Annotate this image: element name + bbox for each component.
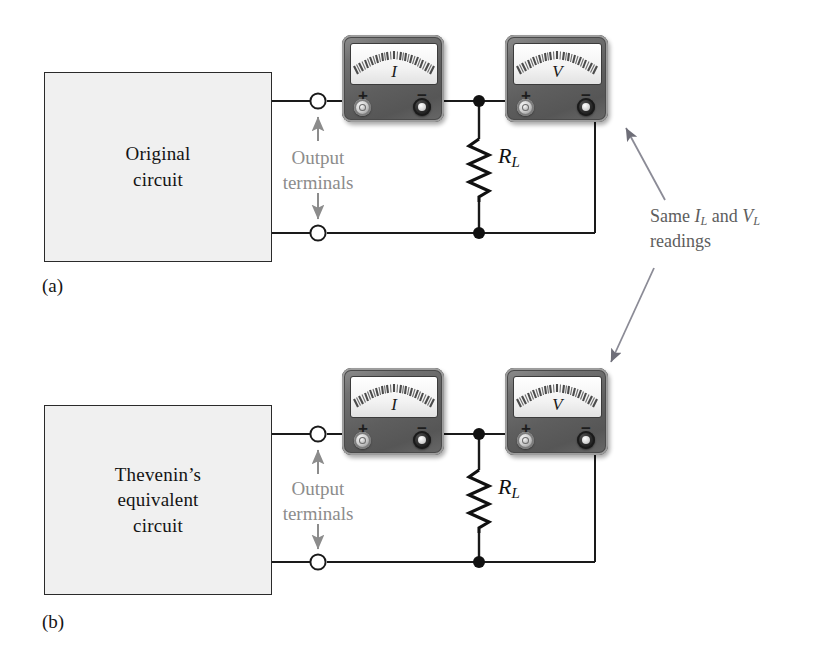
part-label-b: (b): [42, 611, 64, 633]
same-readings-annotation: Same IL and VL readings: [650, 205, 760, 253]
resistor-label-b-sub: L: [511, 485, 519, 501]
output-terminals-a-line2: terminals: [262, 171, 374, 196]
ammeter-b-minus-jack[interactable]: [413, 431, 431, 449]
output-terminals-label-b: Output terminals: [262, 477, 374, 526]
voltmeter-b-face-label: V: [514, 395, 601, 415]
same-readings-prefix: Same: [650, 206, 695, 226]
same-readings-line1: Same IL and VL: [650, 205, 760, 230]
arrow-to-panel-b: [611, 268, 654, 362]
output-terminals-label-a: Output terminals: [262, 146, 374, 195]
ammeter-a-plus-jack[interactable]: [354, 99, 371, 116]
ammeter-panel-b[interactable]: I + −: [342, 368, 444, 455]
ammeter-a-face: I: [350, 43, 438, 85]
ammeter-b-face-label: I: [351, 395, 437, 415]
output-terminals-b-line1: Output: [262, 477, 374, 502]
thevenin-circuit-box-label: Thevenin’s equivalent circuit: [115, 462, 201, 539]
resistor-label-a: RL: [498, 143, 520, 171]
thevenin-label-line2: equivalent: [115, 487, 201, 513]
ammeter-b-plus-jack[interactable]: [354, 432, 371, 449]
voltmeter-a-face-label: V: [514, 62, 601, 82]
same-readings-voltage-sub: L: [753, 214, 760, 228]
part-label-a: (a): [42, 275, 63, 297]
voltmeter-b-minus-jack[interactable]: [577, 431, 595, 449]
original-circuit-box[interactable]: Original circuit: [44, 72, 272, 262]
original-circuit-box-label: Original circuit: [126, 141, 191, 192]
ammeter-a-minus-jack[interactable]: [413, 98, 431, 116]
thevenin-circuit-box[interactable]: Thevenin’s equivalent circuit: [44, 405, 272, 595]
ammeter-b-face: I: [350, 376, 438, 418]
resistor-label-b-symbol: R: [498, 474, 511, 499]
output-terminals-b-line2: terminals: [262, 502, 374, 527]
voltmeter-panel-b[interactable]: V + −: [505, 368, 608, 455]
voltmeter-panel-a[interactable]: V + −: [505, 35, 608, 122]
same-readings-conjunction: and: [707, 206, 742, 226]
output-terminals-a-line1: Output: [262, 146, 374, 171]
ammeter-panel-a[interactable]: I + −: [342, 35, 444, 122]
voltmeter-b-face: V: [513, 376, 602, 418]
resistor-label-a-sub: L: [511, 154, 519, 170]
resistor-label-b: RL: [498, 474, 520, 502]
resistor-label-a-symbol: R: [498, 143, 511, 168]
same-readings-voltage-symbol: V: [742, 206, 753, 226]
original-circuit-label-line2: circuit: [126, 167, 191, 193]
voltmeter-b-plus-jack[interactable]: [517, 432, 534, 449]
figure-canvas: Original circuit Output terminals RL: [0, 0, 813, 661]
same-readings-line2: readings: [650, 230, 760, 254]
thevenin-label-line3: circuit: [115, 513, 201, 539]
arrow-to-panel-a: [626, 128, 665, 200]
voltmeter-a-plus-jack[interactable]: [517, 99, 534, 116]
thevenin-label-line1: Thevenin’s: [115, 462, 201, 488]
original-circuit-label-line1: Original: [126, 141, 191, 167]
voltmeter-a-face: V: [513, 43, 602, 85]
ammeter-a-face-label: I: [351, 62, 437, 82]
voltmeter-a-minus-jack[interactable]: [577, 98, 595, 116]
